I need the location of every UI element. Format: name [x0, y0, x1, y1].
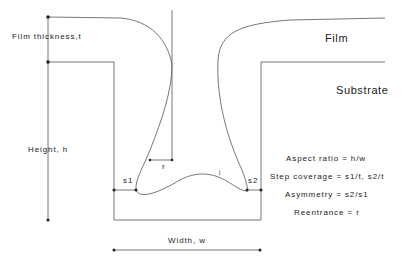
- reentrance-label: r: [162, 162, 166, 171]
- r-left-dot: [149, 159, 152, 162]
- reentrance-definition: Reentrance = r: [294, 208, 360, 217]
- width-right-dot: [259, 249, 262, 252]
- r-right-dot: [171, 159, 174, 162]
- s2-left-dot: [246, 189, 249, 192]
- width-left-dot: [113, 249, 116, 252]
- thickness-bottom-dot: [46, 60, 50, 64]
- width-label: Width, w: [168, 236, 206, 245]
- s1-right-dot: [135, 189, 138, 192]
- film-label: Film: [325, 32, 348, 44]
- s1-left-dot: [113, 189, 116, 192]
- height-label: Height, h: [28, 145, 68, 154]
- s2-right-dot: [260, 189, 263, 192]
- film-thickness-label: Film thickness,t: [12, 32, 82, 41]
- substrate-label: Substrate: [336, 84, 388, 96]
- film-profile-right: [218, 18, 385, 190]
- aspect-ratio-definition: Aspect ratio = h/w: [286, 154, 366, 163]
- s2-label: s2: [248, 176, 258, 185]
- step-coverage-definition: Step coverage = s1/t, s2/t: [270, 172, 384, 181]
- void-marker: ʲ: [219, 169, 221, 178]
- s1-label: s1: [123, 176, 133, 185]
- film-profile-left: [48, 17, 248, 195]
- thickness-top-dot: [46, 15, 50, 19]
- height-bottom-dot: [46, 218, 49, 221]
- asymmetry-definition: Asymmetry = s2/s1: [285, 190, 369, 199]
